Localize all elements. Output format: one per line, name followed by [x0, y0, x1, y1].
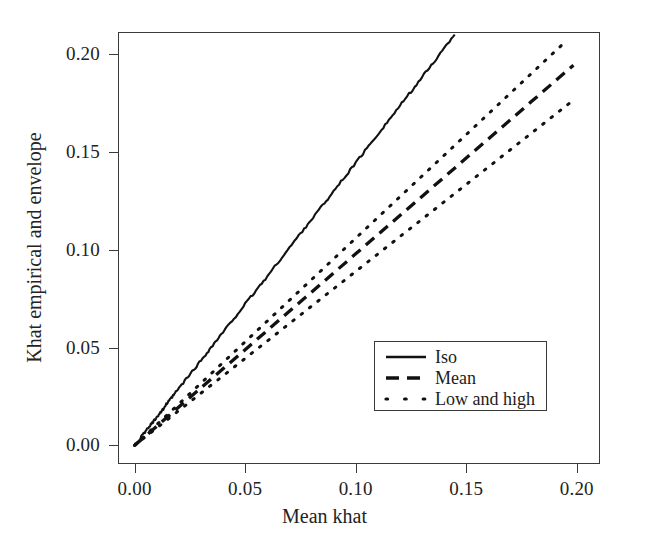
y-tick-mark: [109, 250, 118, 251]
legend-key-solid-icon: [384, 350, 428, 364]
legend-item: Mean: [375, 367, 546, 388]
y-tick-label: 0.00: [0, 434, 100, 456]
x-tick-label: 0.05: [228, 478, 262, 500]
legend-item: Low and high: [375, 388, 546, 409]
x-tick-label: 0.15: [449, 478, 483, 500]
legend-key-dashed-icon: [384, 371, 428, 385]
x-tick-label: 0.10: [339, 478, 373, 500]
x-tick-mark: [356, 464, 357, 473]
chart-figure: 0.000.050.100.150.200.000.050.100.150.20…: [0, 0, 649, 542]
y-tick-mark: [109, 445, 118, 446]
y-tick-mark: [109, 348, 118, 349]
x-tick-label: 0.00: [118, 478, 152, 500]
x-axis-label: Mean khat: [0, 505, 649, 528]
y-tick-label: 0.10: [0, 239, 100, 261]
y-tick-mark: [109, 152, 118, 153]
legend-item: Iso: [375, 346, 546, 367]
y-tick-label: 0.15: [0, 141, 100, 163]
x-tick-label: 0.20: [560, 478, 594, 500]
x-tick-mark: [245, 464, 246, 473]
y-tick-label: 0.20: [0, 43, 100, 65]
chart-legend: IsoMeanLow and high: [374, 341, 547, 411]
legend-label: Iso: [435, 348, 457, 366]
x-tick-mark: [577, 464, 578, 473]
legend-key-dotted-icon: [384, 392, 428, 406]
legend-label: Low and high: [435, 390, 535, 408]
x-tick-mark: [466, 464, 467, 473]
y-tick-label: 0.05: [0, 337, 100, 359]
legend-label: Mean: [435, 369, 476, 387]
x-tick-mark: [135, 464, 136, 473]
y-tick-mark: [109, 54, 118, 55]
y-axis-label: Khat empirical and envelope: [23, 18, 46, 478]
